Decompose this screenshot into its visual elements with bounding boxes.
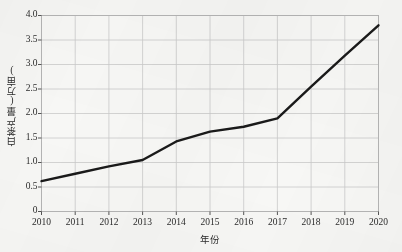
x-axis-tick-label: 2014 [159, 218, 193, 228]
y-axis-tick-label: 3.5 [14, 35, 38, 45]
y-axis-tick-label: 1.5 [14, 133, 38, 143]
y-axis-tick-label: 3.0 [14, 59, 38, 69]
plot-area [0, 0, 402, 252]
x-axis-tick-label: 2016 [227, 218, 261, 228]
x-axis-tick-label: 2012 [92, 218, 126, 228]
y-axis-title: 白茶产量(万亩) [4, 0, 22, 212]
x-axis-title: 年份 [170, 232, 250, 246]
x-axis-tick-label: 2019 [328, 218, 362, 228]
y-axis-tick-label: 2.5 [14, 84, 38, 94]
y-axis-tick-label: 1.0 [14, 157, 38, 167]
x-axis-tick-label: 2017 [260, 218, 294, 228]
x-axis-tick-label: 2020 [362, 218, 396, 228]
line-chart: 白茶产量(万亩) 00.51.01.52.02.53.03.54.0201020… [0, 0, 402, 252]
x-axis-ticks [42, 212, 379, 216]
y-axis-tick-label: 0 [14, 206, 38, 216]
x-axis-tick-label: 2011 [58, 218, 92, 228]
x-axis-tick-label: 2015 [193, 218, 227, 228]
y-axis-tick-label: 4.0 [14, 10, 38, 20]
y-axis-tick-label: 2.0 [14, 108, 38, 118]
x-axis-tick-label: 2010 [25, 218, 59, 228]
x-axis-tick-label: 2018 [294, 218, 328, 228]
y-axis-tick-label: 0.5 [14, 182, 38, 192]
x-axis-tick-label: 2013 [126, 218, 160, 228]
